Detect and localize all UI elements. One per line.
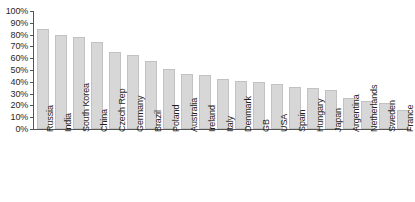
- x-axis-tick: Italy: [214, 130, 232, 202]
- x-axis-tick-label: Spain: [298, 109, 307, 132]
- y-axis-tick-label: 100%: [6, 7, 28, 16]
- y-axis-tick-mark: [30, 117, 33, 118]
- x-axis-tick-label: Sweden: [388, 100, 397, 132]
- x-axis-tick: Brazil: [142, 130, 160, 202]
- x-axis-tick: Denmark: [232, 130, 250, 202]
- x-axis-tick: China: [88, 130, 106, 202]
- y-axis-tick-mark: [30, 94, 33, 95]
- x-axis-tick: USA: [268, 130, 286, 202]
- x-axis-tick: Poland: [160, 130, 178, 202]
- x-axis-tick: Germany: [124, 130, 142, 202]
- x-axis-tick-label: South Korea: [82, 83, 91, 132]
- x-axis-tick-label: Denmark: [244, 96, 253, 132]
- y-axis-tick-mark: [30, 70, 33, 71]
- y-axis-tick-mark: [30, 82, 33, 83]
- x-axis-tick: Russia: [34, 130, 52, 202]
- x-axis-tick-label: Czech Rep: [118, 88, 127, 132]
- y-axis-tick-label: 40%: [11, 77, 28, 86]
- y-axis-tick-label: 80%: [11, 30, 28, 39]
- y-axis-tick-mark: [30, 105, 33, 106]
- y-axis-tick-mark: [30, 129, 33, 130]
- y-axis-tick-mark: [30, 58, 33, 59]
- x-axis-tick-label: Germany: [136, 96, 145, 132]
- x-axis-tick-label: France: [406, 105, 415, 132]
- x-axis-tick-label: China: [100, 109, 109, 132]
- x-axis-tick-label: Hungary: [316, 99, 325, 132]
- x-axis-tick: GB: [250, 130, 268, 202]
- x-axis-tick: Czech Rep: [106, 130, 124, 202]
- y-axis-tick-mark: [30, 46, 33, 47]
- bar-slot: [55, 11, 66, 129]
- x-axis-tick: Netherlands: [358, 130, 376, 202]
- y-axis-tick-label: 50%: [11, 66, 28, 75]
- x-axis-tick-label: Brazil: [154, 110, 163, 132]
- y-axis-tick-label: 10%: [11, 113, 28, 122]
- bar-slot: [271, 11, 282, 129]
- x-axis-tick-label: Poland: [172, 105, 181, 132]
- x-axis-tick-label: Russia: [46, 105, 55, 132]
- bar-slot: [253, 11, 264, 129]
- x-axis-tick: Spain: [286, 130, 304, 202]
- x-axis-tick: Ireland: [196, 130, 214, 202]
- x-axis-tick: France: [394, 130, 412, 202]
- y-axis-tick-label: 20%: [11, 101, 28, 110]
- x-axis-tick: Japan: [322, 130, 340, 202]
- y-axis-tick-label: 0%: [15, 125, 28, 134]
- y-axis-tick-label: 90%: [11, 18, 28, 27]
- x-axis-tick-label: Japan: [334, 108, 343, 132]
- y-axis: 100%90%80%70%60%50%40%30%20%10%0%: [0, 0, 31, 140]
- x-axis: RussiaIndiaSouth KoreaChinaCzech RepGerm…: [34, 130, 412, 202]
- x-axis-tick: South Korea: [70, 130, 88, 202]
- x-axis-tick: Sweden: [376, 130, 394, 202]
- x-axis-tick: India: [52, 130, 70, 202]
- x-axis-tick-label: Netherlands: [370, 85, 379, 132]
- y-axis-tick-mark: [30, 23, 33, 24]
- x-axis-tick: Hungary: [304, 130, 322, 202]
- bar-slot: [217, 11, 228, 129]
- x-axis-tick-label: Ireland: [208, 105, 217, 132]
- y-axis-tick-label: 60%: [11, 54, 28, 63]
- y-axis-tick-label: 70%: [11, 42, 28, 51]
- x-axis-tick-label: Argentina: [352, 94, 361, 132]
- x-axis-tick: Australia: [178, 130, 196, 202]
- x-axis-tick-label: Australia: [190, 98, 199, 132]
- y-axis-tick-label: 30%: [11, 89, 28, 98]
- x-axis-tick: Argentina: [340, 130, 358, 202]
- y-axis-tick-mark: [30, 11, 33, 12]
- y-axis-tick-mark: [30, 35, 33, 36]
